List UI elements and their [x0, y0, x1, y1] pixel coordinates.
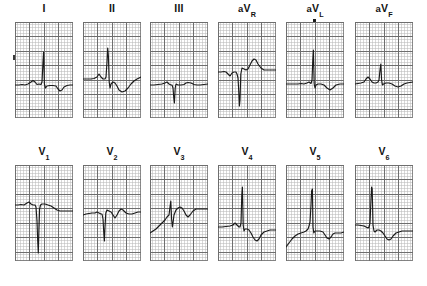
lead-label-main: V [173, 145, 180, 157]
lead-label-V4: V4 [218, 145, 276, 157]
lead-panel-II[interactable]: II [83, 22, 141, 118]
ecg-trace-V3 [150, 165, 208, 261]
lead-label-aVF: aVF [355, 2, 413, 15]
lead-label-main: V [244, 2, 251, 14]
lead-label-main: I [42, 2, 45, 14]
lead-label-subscript: R [251, 10, 256, 19]
lead-label-subscript: L [319, 10, 323, 19]
lead-label-main: II [109, 2, 115, 14]
ecg-trace-I [15, 22, 73, 118]
lead-label-I: I [15, 2, 73, 14]
lead-label-III: III [150, 2, 208, 14]
ecg-row-precordial-leads: V1 V2 V3 V4 V5 [0, 143, 427, 286]
lead-panel-aVF[interactable]: aVF [355, 22, 413, 118]
lead-label-II: II [83, 2, 141, 14]
lead-label-aVR: aVR [218, 2, 276, 15]
lead-panel-aVL[interactable]: aVL [286, 22, 344, 118]
lead-label-main: V [309, 145, 316, 157]
ecg-trace-V5 [286, 165, 344, 261]
lead-panel-V6[interactable]: V6 [355, 165, 413, 261]
ecg-trace-box-V2 [83, 165, 141, 261]
lead-label-V5: V5 [286, 145, 344, 157]
ecg-trace-box-V4 [218, 165, 276, 261]
lead-panel-I[interactable]: I [15, 22, 73, 118]
ecg-trace-box-aVF [355, 22, 413, 118]
ecg-trace-box-V6 [355, 165, 413, 261]
ecg-trace-V4 [218, 165, 276, 261]
ecg-trace-aVL [286, 22, 344, 118]
ecg-row-limb-leads: I II III aVR aVL [0, 0, 427, 143]
ecg-trace-V2 [83, 165, 141, 261]
lead-panel-V4[interactable]: V4 [218, 165, 276, 261]
lead-panel-V1[interactable]: V1 [15, 165, 73, 261]
lead-label-V3: V3 [150, 145, 208, 157]
lead-label-main: III [174, 2, 183, 14]
ecg-trace-box-V1 [15, 165, 73, 261]
lead-label-main: V [241, 145, 248, 157]
lead-label-main: V [38, 145, 45, 157]
ecg-trace-V6 [355, 165, 413, 261]
lead-panel-V2[interactable]: V2 [83, 165, 141, 261]
ecg-trace-box-V3 [150, 165, 208, 261]
ecg-trace-aVF [355, 22, 413, 118]
lead-label-subscript: 6 [386, 153, 390, 162]
ecg-trace-box-V5 [286, 165, 344, 261]
calibration-tick [13, 55, 15, 60]
lead-panel-aVR[interactable]: aVR [218, 22, 276, 118]
lead-panel-V3[interactable]: V3 [150, 165, 208, 261]
lead-label-subscript: 1 [46, 153, 50, 162]
ecg-trace-II [83, 22, 141, 118]
lead-label-main: V [106, 145, 113, 157]
ecg-trace-box-III [150, 22, 208, 118]
ecg-trace-box-II [83, 22, 141, 118]
lead-label-subscript: F [388, 10, 392, 19]
ecg-trace-aVR [218, 22, 276, 118]
lead-label-subscript: 3 [181, 153, 185, 162]
lead-label-subscript: 4 [249, 153, 253, 162]
lead-label-subscript: 2 [114, 153, 118, 162]
ecg-trace-III [150, 22, 208, 118]
ecg-trace-box-aVL [286, 22, 344, 118]
lead-label-V6: V6 [355, 145, 413, 157]
lead-label-V1: V1 [15, 145, 73, 157]
ecg-sheet: I II III aVR aVL [0, 0, 427, 286]
lead-label-V2: V2 [83, 145, 141, 157]
ecg-trace-box-aVR [218, 22, 276, 118]
lead-panel-V5[interactable]: V5 [286, 165, 344, 261]
lead-label-aVL: aVL [286, 2, 344, 15]
lead-panel-III[interactable]: III [150, 22, 208, 118]
lead-label-main: V [378, 145, 385, 157]
ecg-trace-box-I [15, 22, 73, 118]
ink-artifact-mark [313, 19, 316, 22]
lead-label-subscript: 5 [317, 153, 321, 162]
ecg-trace-V1 [15, 165, 73, 261]
